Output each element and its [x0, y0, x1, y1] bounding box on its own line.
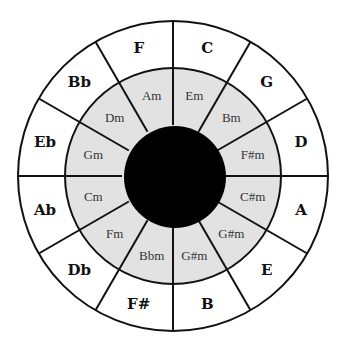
- minor-key-label: Bbm: [139, 248, 164, 263]
- minor-key-label: Dm: [105, 110, 125, 125]
- major-key-label: B: [201, 295, 214, 313]
- minor-key-label: G#m: [218, 226, 244, 241]
- major-key-label: Db: [68, 261, 92, 279]
- minor-key-label: C#m: [240, 189, 265, 204]
- major-key-label: C: [201, 39, 213, 57]
- minor-key-label: Am: [142, 88, 162, 103]
- major-key-label: F#: [127, 295, 150, 313]
- major-key-label: G: [260, 73, 273, 91]
- major-key-label: F: [133, 39, 144, 57]
- major-key-label: A: [294, 201, 307, 219]
- major-key-label: D: [294, 133, 307, 151]
- minor-key-label: Bm: [222, 110, 241, 125]
- minor-key-label: F#m: [241, 147, 265, 162]
- minor-key-label: Fm: [106, 226, 123, 241]
- center-black-circle: [124, 126, 226, 228]
- minor-key-label: Cm: [84, 189, 103, 204]
- major-key-label: E: [261, 261, 272, 279]
- major-key-label: Ab: [33, 201, 56, 219]
- minor-key-label: Em: [185, 88, 203, 103]
- minor-key-label: G#m: [181, 248, 207, 263]
- minor-key-label: Gm: [84, 147, 104, 162]
- major-key-label: Bb: [68, 73, 91, 91]
- circle-of-fifths-diagram: CGDAEBF#DbAbEbBbF EmBmF#mC#mG#mG#mBbmFmC…: [0, 0, 344, 353]
- major-key-label: Eb: [34, 133, 56, 151]
